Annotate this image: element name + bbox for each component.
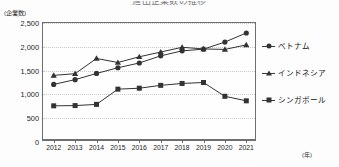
x-tick-label: 2021 (239, 144, 254, 151)
x-tick-label: 2019 (196, 144, 211, 151)
data-point-circle (244, 30, 249, 35)
chart-title: 進出企業数の推移 (0, 0, 339, 7)
y-tick-label: 1,000 (21, 90, 40, 99)
data-point-square (201, 80, 206, 85)
series-line (54, 45, 247, 75)
x-tick-label: 2020 (217, 144, 232, 151)
series-line (54, 33, 247, 84)
y-tick-label: 2,000 (21, 42, 40, 51)
data-point-square (51, 103, 56, 108)
legend-item[interactable]: インドネシア (262, 67, 326, 78)
data-point-triangle (179, 44, 185, 49)
legend-label: シンガポール (278, 94, 326, 105)
data-point-triangle (93, 55, 99, 60)
series-plot (43, 23, 257, 142)
data-point-circle (137, 60, 142, 65)
data-point-square (73, 103, 78, 108)
data-point-circle (73, 77, 78, 82)
data-point-triangle (72, 71, 78, 76)
legend-marker-square-icon (262, 95, 275, 104)
x-tick-label: 2012 (46, 144, 61, 151)
y-tick-label: 2,500 (21, 19, 40, 28)
legend-item[interactable]: ベトナム (262, 40, 326, 51)
x-tick-label: 2018 (175, 144, 190, 151)
data-point-square (94, 102, 99, 107)
data-point-square (180, 81, 185, 86)
data-point-square (244, 98, 249, 103)
data-point-circle (115, 65, 120, 70)
x-tick-label: 2017 (153, 144, 168, 151)
x-tick-label: 2013 (68, 144, 83, 151)
data-point-triangle (243, 42, 249, 47)
legend-label: ベトナム (278, 40, 310, 51)
y-axis-unit-label: (企業数) (4, 8, 26, 17)
data-point-square (158, 83, 163, 88)
y-tick-label: 500 (27, 114, 39, 123)
legend-label: インドネシア (278, 67, 326, 78)
data-point-square (222, 94, 227, 99)
x-tick-label: 2014 (89, 144, 104, 151)
legend-marker-triangle-icon (262, 68, 275, 77)
series-line (54, 83, 247, 106)
x-tick-label: 2016 (132, 144, 147, 151)
data-point-circle (51, 82, 56, 87)
data-point-circle (94, 71, 99, 76)
chart-container: 進出企業数の推移 (企業数) (年) 05001,0001,5002,0002,… (0, 0, 339, 167)
y-tick-label: 0 (35, 138, 39, 147)
chart-legend: ベトナムインドネシアシンガポール (262, 40, 326, 105)
data-point-circle (222, 39, 227, 44)
y-tick-label: 1,500 (21, 66, 40, 75)
plot-area: 05001,0001,5002,0002,500 201220132014201… (42, 22, 256, 141)
legend-item[interactable]: シンガポール (262, 94, 326, 105)
data-point-square (137, 86, 142, 91)
data-point-square (115, 87, 120, 92)
x-axis-unit-label: (年) (302, 150, 312, 159)
legend-marker-circle-icon (262, 41, 275, 50)
x-tick-label: 2015 (110, 144, 125, 151)
